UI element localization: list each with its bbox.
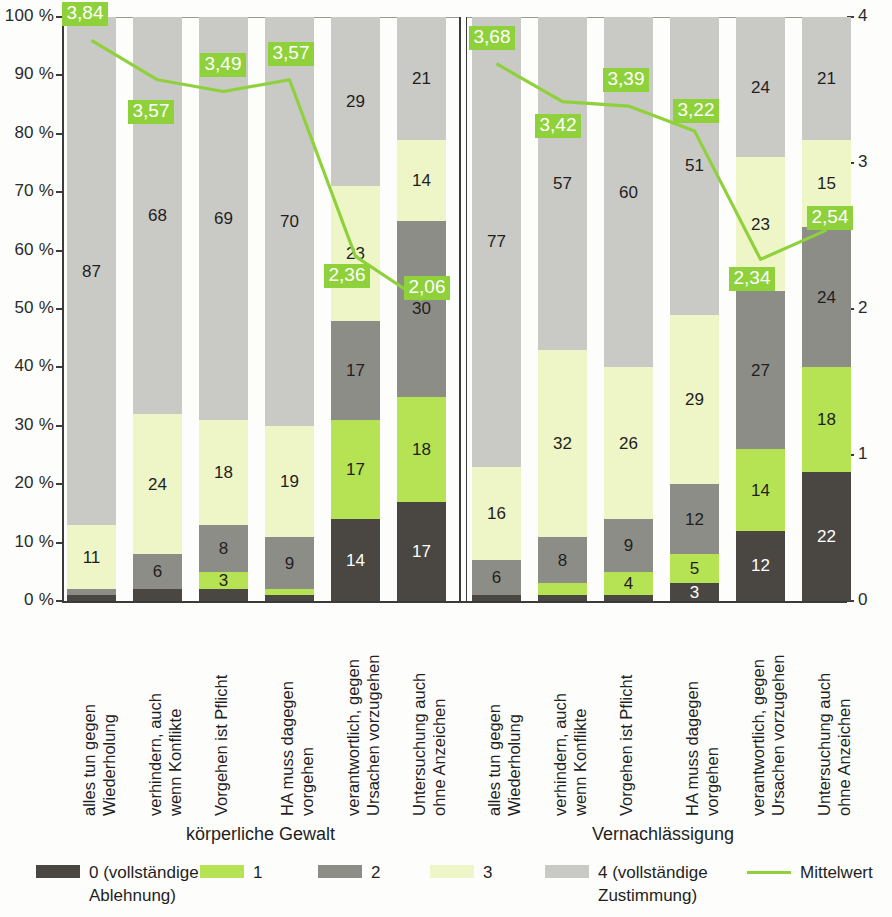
legend-0[interactable]: 0 (vollständige Ablehnung) — [36, 862, 199, 908]
bar-segment-3[interactable]: 23 — [331, 186, 380, 320]
bar-segment-value: 24 — [817, 289, 836, 306]
bar-segment-0[interactable]: 14 — [331, 519, 380, 601]
stacked-bar[interactable]: 77166 — [472, 17, 521, 601]
y-tick-label-80: 80 % — [14, 123, 54, 143]
bar-segment-2[interactable]: 17 — [331, 321, 380, 420]
bar-segment-4[interactable]: 77 — [472, 17, 521, 467]
bar-segment-0[interactable]: 3 — [670, 583, 719, 601]
legend-2[interactable]: 2 — [318, 862, 380, 885]
bar-segment-0[interactable] — [472, 595, 521, 601]
stacked-bar[interactable]: 2423271412 — [736, 17, 785, 601]
bar-segment-4[interactable]: 29 — [331, 17, 380, 186]
bar-segment-0[interactable] — [67, 595, 116, 601]
legend-1[interactable]: 1 — [200, 862, 262, 885]
legend-3[interactable]: 3 — [430, 862, 492, 885]
bar-segment-3[interactable]: 18 — [199, 420, 248, 525]
stacked-bar[interactable]: 57328 — [538, 17, 587, 601]
stacked-bar[interactable]: 8711 — [67, 17, 116, 601]
bar-segment-0[interactable]: 12 — [736, 531, 785, 601]
bar-segment-1[interactable]: 18 — [397, 397, 446, 502]
y-tick-mark-60 — [56, 250, 63, 252]
bar-segment-0[interactable] — [133, 589, 182, 601]
bar-segment-value: 70 — [280, 213, 299, 230]
bar-segment-0[interactable] — [199, 589, 248, 601]
bar-segment-0[interactable] — [265, 595, 314, 601]
bar-segment-3[interactable]: 29 — [670, 315, 719, 484]
bar-segment-value: 15 — [817, 175, 836, 192]
mean-value-label: 3,57 — [268, 42, 315, 66]
legend-swatch-icon — [36, 865, 80, 878]
bar-segment-4[interactable]: 68 — [133, 17, 182, 414]
stacked-bar[interactable]: 70199 — [265, 17, 314, 601]
bar-segment-2[interactable]: 9 — [604, 519, 653, 572]
bar-segment-value: 21 — [412, 70, 431, 87]
bar-segment-value: 77 — [487, 233, 506, 250]
bar-segment-0[interactable]: 22 — [802, 472, 851, 600]
bar-segment-4[interactable]: 70 — [265, 17, 314, 426]
bar-segment-1[interactable]: 4 — [604, 572, 653, 595]
mean-value-label: 3,39 — [603, 68, 650, 92]
bar-segment-4[interactable]: 24 — [736, 17, 785, 157]
bar-segment-3[interactable]: 32 — [538, 350, 587, 537]
bar-segment-3[interactable]: 11 — [67, 525, 116, 589]
bar-segment-3[interactable]: 26 — [604, 367, 653, 519]
mean-value-label: 3,84 — [62, 2, 109, 26]
bar-segment-value: 23 — [346, 245, 365, 262]
y-tick-mark-70 — [56, 191, 63, 193]
y-tick-mark-0 — [56, 600, 63, 602]
bar-segment-0[interactable] — [604, 595, 653, 601]
bar-segment-value: 6 — [492, 569, 501, 586]
legend-swatch-icon — [318, 865, 362, 878]
bar-segment-1[interactable] — [538, 583, 587, 595]
bar-segment-2[interactable]: 24 — [802, 227, 851, 367]
bar-segment-4[interactable]: 21 — [802, 17, 851, 140]
y-tick-label-60: 60 % — [14, 240, 54, 260]
bar-segment-0[interactable] — [538, 595, 587, 601]
bar-segment-1[interactable]: 5 — [670, 554, 719, 583]
bar-segment-2[interactable]: 8 — [538, 537, 587, 584]
bar-segment-value: 8 — [219, 540, 228, 557]
x-axis-label: verhindern, auch wenn Konflikte — [550, 616, 590, 816]
bar-segment-2[interactable]: 27 — [736, 291, 785, 449]
bar-segment-4[interactable]: 21 — [397, 17, 446, 140]
bar-segment-4[interactable]: 57 — [538, 17, 587, 350]
stacked-bar[interactable]: 2114301817 — [397, 17, 446, 601]
legend-swatch-icon — [545, 865, 589, 878]
group-label: körperliche Gewalt — [186, 824, 335, 845]
stacked-bar[interactable]: 2115241822 — [802, 17, 851, 601]
bar-segment-3[interactable]: 24 — [133, 414, 182, 554]
bar-segment-1[interactable]: 3 — [199, 572, 248, 590]
x-axis-label: Untersuchung auch ohne Anzeichen — [409, 616, 449, 816]
y2-tick-label-3: 3 — [858, 152, 868, 172]
bar-segment-value: 18 — [412, 441, 431, 458]
x-axis-label: verantwortlich, gegen Ursachen vorzugehe… — [343, 616, 383, 816]
bar-segment-value: 51 — [685, 157, 704, 174]
legend-4[interactable]: 4 (vollständige Zustimmung) — [545, 862, 708, 908]
bar-segment-3[interactable]: 16 — [472, 467, 521, 560]
bar-segment-value: 14 — [751, 482, 770, 499]
bar-segment-1[interactable]: 18 — [802, 367, 851, 472]
bar-segment-1[interactable]: 17 — [331, 420, 380, 519]
bar-segment-2[interactable]: 6 — [133, 554, 182, 589]
mean-value-label: 2,34 — [729, 267, 776, 291]
stacked-bar[interactable]: 691883 — [199, 17, 248, 601]
bar-segment-value: 30 — [412, 300, 431, 317]
bar-segment-3[interactable]: 19 — [265, 426, 314, 537]
bar-segment-1[interactable]: 14 — [736, 449, 785, 531]
bar-segment-4[interactable]: 87 — [67, 17, 116, 525]
bar-segment-value: 60 — [619, 184, 638, 201]
bar-segment-2[interactable]: 9 — [265, 537, 314, 590]
bar-segment-2[interactable]: 8 — [199, 525, 248, 572]
bar-segment-0[interactable]: 17 — [397, 502, 446, 601]
stacked-bar[interactable]: 2923171714 — [331, 17, 380, 601]
bar-segment-3[interactable]: 14 — [397, 140, 446, 222]
bar-segment-2[interactable]: 6 — [472, 560, 521, 595]
legend-mean[interactable]: Mittelwert — [747, 862, 873, 885]
bar-segment-2[interactable]: 12 — [670, 484, 719, 554]
bar-segment-4[interactable]: 51 — [670, 17, 719, 315]
bar-segment-value: 23 — [751, 216, 770, 233]
bar-segment-4[interactable]: 69 — [199, 17, 248, 420]
bar-segment-value: 12 — [685, 511, 704, 528]
bar-segment-2[interactable]: 30 — [397, 221, 446, 396]
stacked-bar[interactable]: 602694 — [604, 17, 653, 601]
